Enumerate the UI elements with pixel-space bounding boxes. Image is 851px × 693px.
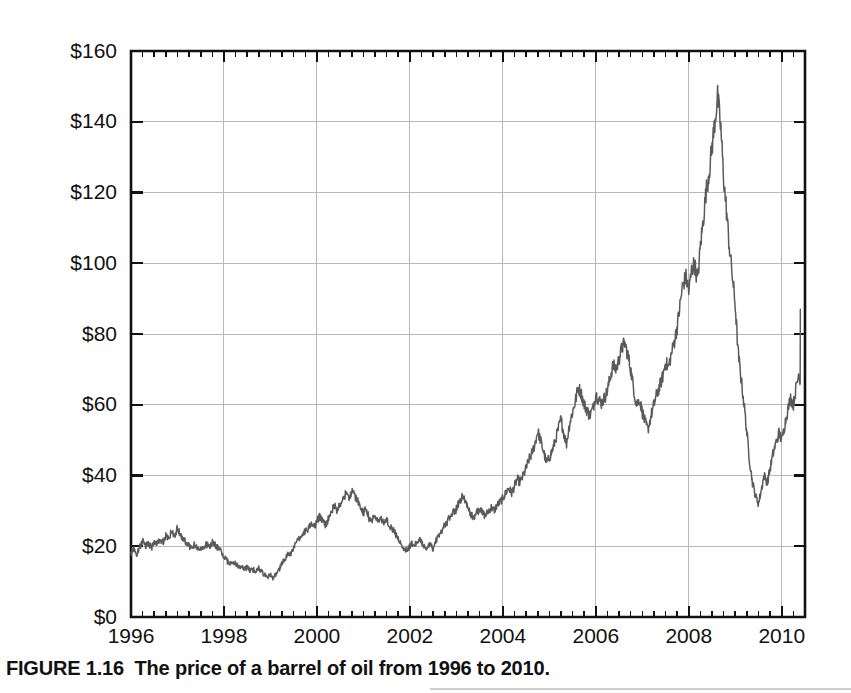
y-tick-label: $60 xyxy=(82,392,117,415)
x-tick-label: 1996 xyxy=(108,624,155,647)
y-tick-label: $120 xyxy=(70,180,117,203)
y-tick-label: $40 xyxy=(82,463,117,486)
figure-number: FIGURE 1.16 xyxy=(6,657,124,679)
page-rule xyxy=(430,688,851,690)
x-tick-label: 2006 xyxy=(572,624,619,647)
y-tick-label: $20 xyxy=(82,534,117,557)
y-tick-label: $140 xyxy=(70,109,117,132)
y-tick-label: $160 xyxy=(70,39,117,62)
x-tick-label: 1998 xyxy=(201,624,248,647)
x-tick-label: 2002 xyxy=(387,624,434,647)
chart-svg: $0$20$40$60$80$100$120$140$160 199619982… xyxy=(0,0,851,655)
x-tick-label: 2000 xyxy=(294,624,341,647)
oil-price-chart: $0$20$40$60$80$100$120$140$160 199619982… xyxy=(0,0,851,655)
x-tick-label: 2010 xyxy=(758,624,805,647)
y-tick-label: $100 xyxy=(70,251,117,274)
y-tick-label: $80 xyxy=(82,322,117,345)
x-tick-label: 2004 xyxy=(480,624,527,647)
x-tick-label: 2008 xyxy=(665,624,712,647)
figure-container: $0$20$40$60$80$100$120$140$160 199619982… xyxy=(0,0,851,693)
figure-caption: FIGURE 1.16 The price of a barrel of oil… xyxy=(6,657,846,680)
chart-background xyxy=(0,0,851,655)
figure-caption-text: The price of a barrel of oil from 1996 t… xyxy=(135,657,550,679)
